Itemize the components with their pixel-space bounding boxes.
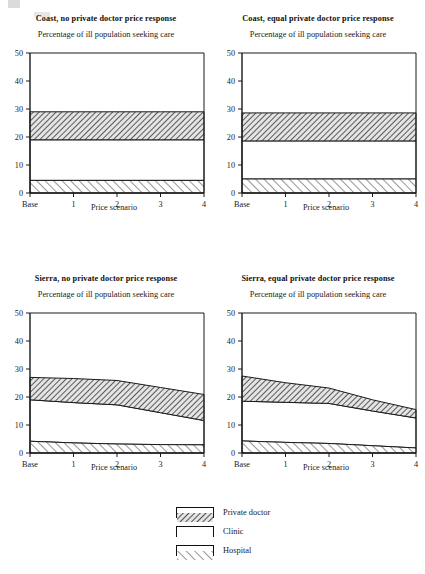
legend-swatch-clinic [177,532,213,541]
plot-wrap: 01020304050 Base1234 Price scenario [0,43,212,218]
legend-item-clinic: Clinic [176,523,336,539]
panel-subtitle: Percentage of ill population seeking car… [6,290,206,299]
legend-item-hospital: Hospital [176,542,336,558]
plot-area: 01020304050 Base1234 [212,43,424,218]
area-hospital [30,181,204,194]
chart-panel-coast-equal-response: Coast, equal private doctor price respon… [212,4,424,244]
plot-area: 01020304050 Base1234 [212,303,424,478]
y-tick-label: 40 [227,337,235,346]
panel-subtitle: Percentage of ill population seeking car… [218,30,418,39]
y-tick-label: 50 [227,49,235,58]
area-hospital [242,179,416,193]
area-clinic [30,140,204,181]
legend-label: Private doctor [223,508,270,517]
y-tick-label: 30 [15,365,23,374]
y-tick-label: 20 [227,133,235,142]
plot-wrap: 01020304050 Base1234 Price scenario [0,303,212,478]
y-tick-label: 30 [227,365,235,374]
chart-panel-sierra-equal-response: Sierra, equal private doctor price respo… [212,264,424,504]
area-clinic [242,141,416,179]
y-tick-label: 20 [227,393,235,402]
x-axis-label: Price scenario [220,203,425,212]
legend-item-private-doctor: Private doctor [176,504,336,520]
legend-label: Hospital [223,546,251,555]
y-tick-label: 30 [15,105,23,114]
y-tick-label: 0 [231,449,235,458]
y-tick-label: 30 [227,105,235,114]
y-tick-label: 40 [15,77,23,86]
y-tick-label: 10 [15,161,23,170]
y-tick-label: 20 [15,393,23,402]
y-tick-label: 50 [15,49,23,58]
plot-area: 01020304050 Base1234 [0,43,212,218]
y-tick-label: 10 [15,421,23,430]
area-private-doctor [242,113,416,141]
panel-subtitle: Percentage of ill population seeking car… [6,30,206,39]
legend-swatch-clinic-box [176,526,214,537]
chart-panel-grid: Coast, no private doctor price responseP… [0,0,425,500]
area-private-doctor [30,112,204,140]
legend-swatch-hospital-box [176,545,214,556]
y-tick-label: 0 [19,189,23,198]
x-axis-label: Price scenario [8,203,220,212]
y-tick-label: 10 [227,421,235,430]
y-tick-label: 10 [227,161,235,170]
y-tick-label: 0 [231,189,235,198]
y-tick-label: 40 [15,337,23,346]
legend-swatch-hospital [177,551,213,560]
y-tick-label: 50 [227,309,235,318]
panel-title: Coast, equal private doctor price respon… [218,14,418,23]
y-tick-label: 50 [15,309,23,318]
x-axis-label: Price scenario [220,463,425,472]
plot-area: 01020304050 Base1234 [0,303,212,478]
chart-panel-coast-no-response: Coast, no private doctor price responseP… [0,4,212,244]
legend-swatch-private-doctor [177,513,213,522]
legend-swatch-private-doctor-box [176,507,214,518]
panel-title: Coast, no private doctor price response [6,14,206,23]
panel-title: Sierra, no private doctor price response [6,274,206,283]
y-tick-label: 20 [15,133,23,142]
figure-legend: Private doctor Clinic Hospital [176,504,336,561]
chart-panel-sierra-no-response: Sierra, no private doctor price response… [0,264,212,504]
y-tick-label: 40 [227,77,235,86]
plot-wrap: 01020304050 Base1234 Price scenario [212,43,424,218]
legend-label: Clinic [223,527,243,536]
panel-title: Sierra, equal private doctor price respo… [218,274,418,283]
panel-subtitle: Percentage of ill population seeking car… [218,290,418,299]
x-axis-label: Price scenario [8,463,220,472]
plot-wrap: 01020304050 Base1234 Price scenario [212,303,424,478]
y-tick-label: 0 [19,449,23,458]
